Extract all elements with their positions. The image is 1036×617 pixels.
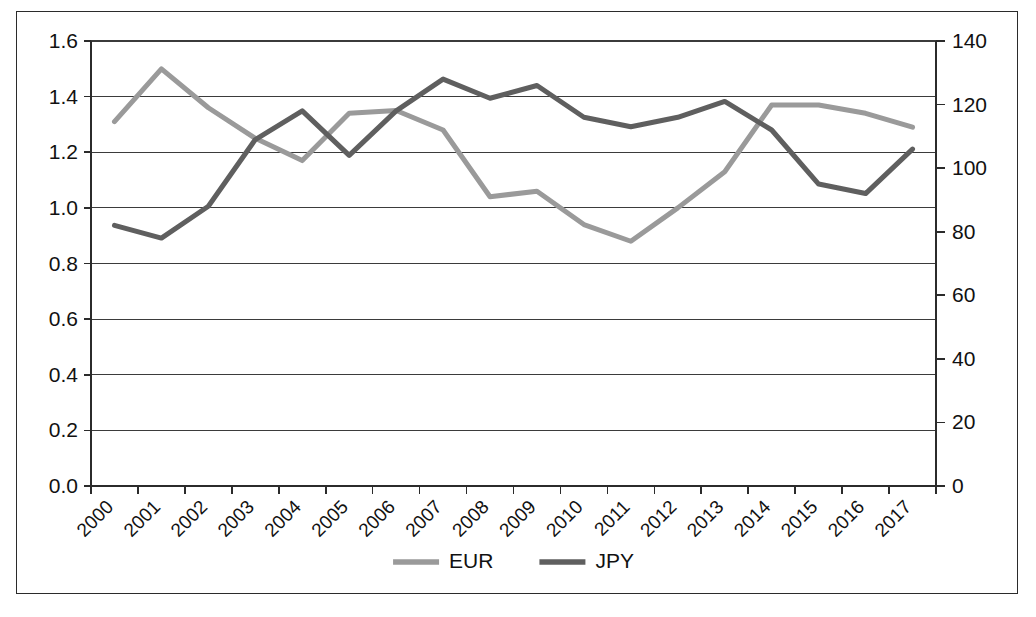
x-axis-tick-label: 2002 xyxy=(166,496,211,541)
x-axis-tick-label: 2008 xyxy=(448,496,493,541)
right-axis-tick-label: 80 xyxy=(952,220,975,243)
left-axis-tick-label: 0.4 xyxy=(49,363,79,386)
x-axis-tick-label: 2009 xyxy=(495,496,540,541)
right-axis-tick-label: 140 xyxy=(952,29,987,52)
left-axis-tick-label: 0.0 xyxy=(49,474,78,497)
right-axis-tick-label: 100 xyxy=(952,156,987,179)
left-axis-tick-label: 1.4 xyxy=(49,85,79,108)
x-axis-tick-label: 2015 xyxy=(777,496,822,541)
line-chart: 0.00.20.40.60.81.01.21.41.6 020406080100… xyxy=(17,12,1019,595)
series-lines-group xyxy=(114,69,912,241)
left-axis-tick-label: 1.0 xyxy=(49,196,78,219)
x-axis-tick-label: 2017 xyxy=(871,496,916,541)
right-axis-tick-label: 120 xyxy=(952,93,987,116)
left-axis-tick-label: 1.2 xyxy=(49,140,78,163)
legend-label-jpy: JPY xyxy=(595,549,634,572)
right-axis-tick-labels: 020406080100120140 xyxy=(952,29,987,497)
left-axis-tick-label: 0.6 xyxy=(49,307,78,330)
x-axis-tick-label: 2010 xyxy=(542,496,587,541)
x-axis-tick-label: 2000 xyxy=(73,496,118,541)
x-axis-tick-label: 2006 xyxy=(354,496,399,541)
gridlines-group xyxy=(91,41,936,486)
left-axis-tick-labels: 0.00.20.40.60.81.01.21.41.6 xyxy=(49,29,79,497)
chart-legend: EURJPY xyxy=(393,549,634,572)
x-axis-tick-label: 2003 xyxy=(213,496,258,541)
x-axis-tick-label: 2013 xyxy=(683,496,728,541)
x-axis-ticks xyxy=(91,486,936,494)
x-axis-tick-label: 2012 xyxy=(636,496,681,541)
right-axis-tick-label: 40 xyxy=(952,347,975,370)
x-axis-tick-label: 2004 xyxy=(260,496,305,541)
right-axis-tick-label: 0 xyxy=(952,474,964,497)
x-axis-tick-label: 2011 xyxy=(590,496,634,540)
x-axis-tick-label: 2014 xyxy=(730,496,775,541)
x-axis-tick-label: 2016 xyxy=(824,496,869,541)
chart-frame: 0.00.20.40.60.81.01.21.41.6 020406080100… xyxy=(16,11,1018,594)
x-axis-tick-label: 2001 xyxy=(119,496,164,541)
x-axis-tick-labels: 2000200120022003200420052006200720082009… xyxy=(73,496,916,541)
legend-label-eur: EUR xyxy=(449,549,493,572)
x-axis-tick-label: 2007 xyxy=(401,496,446,541)
x-axis-tick-label: 2005 xyxy=(307,496,352,541)
left-axis-tick-label: 0.8 xyxy=(49,252,78,275)
figure-root: 0.00.20.40.60.81.01.21.41.6 020406080100… xyxy=(0,0,1036,617)
right-axis-tick-label: 20 xyxy=(952,410,975,433)
left-axis-tick-label: 0.2 xyxy=(49,418,78,441)
left-axis-tick-label: 1.6 xyxy=(49,29,78,52)
right-axis-tick-label: 60 xyxy=(952,283,975,306)
